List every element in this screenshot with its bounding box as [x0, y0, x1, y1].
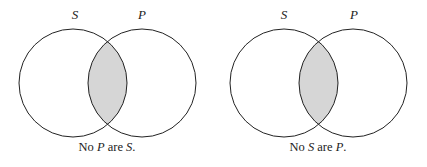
- caption-var: P: [97, 140, 105, 154]
- venn-diagram-1: [19, 29, 196, 137]
- caption: No S are P.: [290, 140, 347, 155]
- label-s: S: [72, 7, 79, 23]
- caption-var: P: [336, 140, 344, 154]
- label-p: P: [350, 7, 358, 23]
- caption-text: are: [105, 140, 127, 154]
- caption-text: are: [314, 140, 336, 154]
- caption-text: .: [132, 140, 135, 154]
- intersection-shaded-region: [88, 29, 196, 137]
- caption-text: No: [290, 140, 308, 154]
- caption-text: No: [79, 140, 97, 154]
- label-p: P: [138, 7, 146, 23]
- label-s: S: [281, 7, 288, 23]
- venn-diagrams: [0, 0, 427, 167]
- caption-text: .: [343, 140, 346, 154]
- venn-diagram-2: [230, 29, 407, 137]
- intersection-shaded-region: [299, 29, 407, 137]
- caption: No P are S.: [79, 140, 136, 155]
